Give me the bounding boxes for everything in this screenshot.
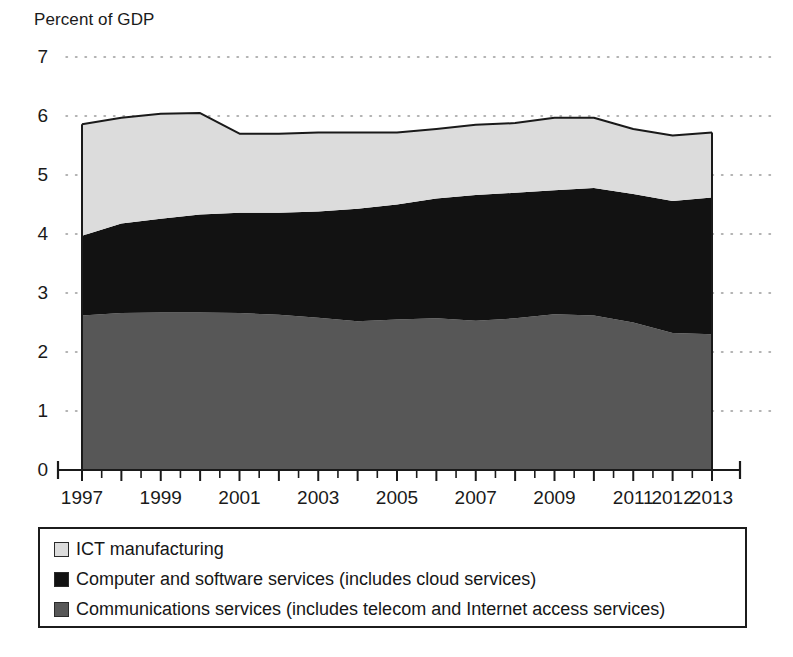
x-tick-label-2001: 2001 bbox=[210, 488, 270, 507]
chart-legend: ICT manufacturing Computer and software … bbox=[38, 527, 747, 628]
x-tick-label-1997: 1997 bbox=[52, 488, 112, 507]
legend-item-computer-and-software-services: Computer and software services (includes… bbox=[54, 566, 536, 592]
legend-swatch-ict-manufacturing bbox=[54, 542, 69, 557]
y-tick-label-5: 5 bbox=[22, 165, 48, 184]
x-tick-label-2003: 2003 bbox=[288, 488, 348, 507]
legend-item-communications-services: Communications services (includes teleco… bbox=[54, 596, 665, 622]
y-tick-label-4: 4 bbox=[22, 224, 48, 243]
chart-root: Percent of GDP 01234567 1997199920012003… bbox=[0, 0, 793, 657]
x-tick-label-2005: 2005 bbox=[367, 488, 427, 507]
y-tick-label-1: 1 bbox=[22, 401, 48, 420]
legend-swatch-communications-services bbox=[54, 602, 69, 617]
x-tick-label-1999: 1999 bbox=[131, 488, 191, 507]
legend-swatch-computer-and-software-services bbox=[54, 572, 69, 587]
y-tick-label-6: 6 bbox=[22, 106, 48, 125]
x-tick-label-2007: 2007 bbox=[446, 488, 506, 507]
legend-item-ict-manufacturing: ICT manufacturing bbox=[54, 536, 224, 562]
legend-label-computer-and-software-services: Computer and software services (includes… bbox=[76, 569, 536, 589]
legend-label-communications-services: Communications services (includes teleco… bbox=[76, 599, 665, 619]
y-tick-label-0: 0 bbox=[22, 460, 48, 479]
area-band-0 bbox=[82, 312, 712, 470]
legend-label-ict-manufacturing: ICT manufacturing bbox=[76, 539, 224, 559]
y-tick-label-7: 7 bbox=[22, 47, 48, 66]
x-tick-label-2013: 2013 bbox=[682, 488, 742, 507]
y-tick-label-3: 3 bbox=[22, 283, 48, 302]
x-tick-label-2009: 2009 bbox=[525, 488, 585, 507]
y-tick-label-2: 2 bbox=[22, 342, 48, 361]
